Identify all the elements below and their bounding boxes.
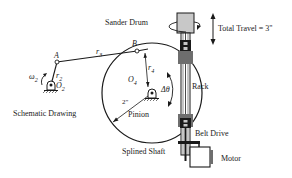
motor-body bbox=[190, 147, 210, 167]
motor-endcap bbox=[210, 150, 213, 164]
drum-rotation-arrowhead bbox=[197, 25, 201, 30]
label-omega2: ω2 bbox=[29, 73, 38, 83]
lower-coupling-slot-a bbox=[184, 120, 188, 123]
omega2-arrow bbox=[41, 75, 45, 85]
upper-coupling-slot-b bbox=[184, 47, 188, 50]
label-schematic-drawing: Schematic Drawing bbox=[13, 110, 76, 118]
label-point-b: B bbox=[132, 40, 137, 48]
pin-a bbox=[55, 60, 59, 64]
label-o2: O2 bbox=[56, 82, 65, 92]
travel-arrowhead-up bbox=[211, 13, 216, 19]
belt-drive-bar bbox=[178, 141, 200, 144]
upper-coupling-slot-a bbox=[184, 42, 188, 45]
travel-arrowhead-down bbox=[211, 39, 216, 45]
label-radius-2in: 2" bbox=[122, 99, 128, 106]
lower-coupling-slot-b bbox=[184, 124, 188, 127]
label-splined-shaft: Splined Shaft bbox=[122, 148, 165, 156]
label-motor: Motor bbox=[221, 155, 241, 163]
r4-arrowhead-top bbox=[144, 53, 148, 58]
label-r4: r4 bbox=[148, 64, 154, 74]
label-total-travel: Total Travel = 3" bbox=[218, 25, 273, 33]
r4-subscript: 4 bbox=[151, 68, 154, 74]
label-o4: O4 bbox=[128, 76, 137, 86]
diagram-canvas: Sander Drum Total Travel = 3" Rack Belt … bbox=[0, 0, 292, 178]
o4-subscript: 4 bbox=[134, 80, 137, 86]
sander-drum bbox=[177, 13, 194, 33]
label-belt-drive: Belt Drive bbox=[195, 130, 229, 138]
label-rack: Rack bbox=[192, 83, 208, 91]
upper-rack-guide-top bbox=[178, 51, 193, 64]
label-delta-theta: Δθ bbox=[161, 86, 170, 94]
ground-pivot-o4 bbox=[144, 89, 159, 101]
label-sander-drum: Sander Drum bbox=[105, 19, 148, 27]
label-pinion: Pinion bbox=[128, 111, 149, 119]
pin-b bbox=[135, 49, 139, 53]
r4-arrowhead-bottom bbox=[146, 82, 150, 87]
o2-subscript: 2 bbox=[62, 86, 65, 92]
r3-subscript: 3 bbox=[99, 52, 102, 58]
omega2-subscript: 2 bbox=[35, 77, 38, 83]
delta-theta-arrowhead-bottom bbox=[168, 101, 172, 107]
label-r3: r3 bbox=[96, 48, 102, 58]
label-point-a: A bbox=[54, 52, 59, 60]
